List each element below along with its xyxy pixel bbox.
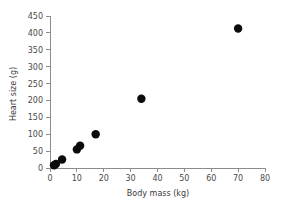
y-tick-label: 400 bbox=[28, 29, 43, 38]
y-tick-label: 300 bbox=[28, 63, 43, 72]
y-tick-label: 0 bbox=[38, 164, 43, 173]
y-tick-label: 50 bbox=[33, 147, 43, 156]
x-axis-title-group: Body mass (kg) bbox=[127, 189, 189, 198]
data-point bbox=[58, 155, 66, 163]
y-tick-label: 250 bbox=[28, 80, 43, 89]
data-point bbox=[76, 142, 84, 150]
chart-figure: 01020304050607080 0501001502002503003504… bbox=[0, 0, 281, 201]
y-axis-title-group: Heart size (g) bbox=[9, 67, 18, 121]
scatter-plot: 01020304050607080 0501001502002503003504… bbox=[0, 0, 281, 201]
y-axis-title: Heart size (g) bbox=[9, 67, 18, 121]
x-tick-labels: 01020304050607080 bbox=[47, 174, 270, 183]
x-tick-label: 50 bbox=[179, 174, 189, 183]
y-tick-label: 450 bbox=[28, 12, 43, 21]
x-tick-label: 20 bbox=[99, 174, 109, 183]
x-tick-label: 40 bbox=[152, 174, 162, 183]
y-tick-label: 200 bbox=[28, 96, 43, 105]
x-tick-label: 70 bbox=[233, 174, 243, 183]
data-point bbox=[91, 130, 99, 138]
y-tick-label: 100 bbox=[28, 130, 43, 139]
x-axis-title: Body mass (kg) bbox=[127, 189, 189, 198]
data-point bbox=[137, 95, 145, 103]
y-tick-label: 350 bbox=[28, 46, 43, 55]
x-tick-label: 0 bbox=[47, 174, 52, 183]
x-tick-label: 60 bbox=[206, 174, 216, 183]
y-tick-label: 150 bbox=[28, 113, 43, 122]
data-point bbox=[234, 24, 242, 32]
x-tick-label: 80 bbox=[260, 174, 270, 183]
x-tick-label: 30 bbox=[126, 174, 136, 183]
x-tick-label: 10 bbox=[72, 174, 82, 183]
